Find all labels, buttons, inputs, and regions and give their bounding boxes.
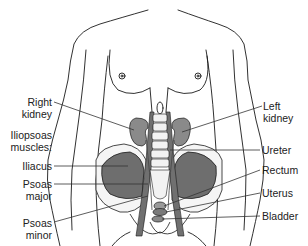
label-bladder-text: Bladder — [262, 210, 298, 222]
label-psoas-minor: Psoas minor — [2, 217, 52, 241]
right-kidney — [130, 118, 149, 146]
label-iliopsoas-muscles: Iliopsoas muscles: — [2, 129, 52, 153]
leader-right-kidney — [54, 102, 134, 130]
leader-left-kidney — [182, 106, 262, 132]
label-psoas-major: Psoas major — [2, 178, 52, 202]
label-iliopsoas-line1: Iliopsoas — [2, 129, 52, 141]
label-right-kidney: Right kidney — [6, 96, 52, 120]
label-bladder: Bladder — [262, 210, 298, 222]
sacrum — [150, 170, 170, 199]
label-psoas-minor-line1: Psoas — [2, 217, 52, 229]
label-rectum-text: Rectum — [262, 164, 298, 176]
label-left-kidney-line1: Left — [263, 100, 293, 112]
label-left-kidney: Left kidney — [263, 100, 293, 124]
label-ureter-text: Ureter — [262, 144, 291, 156]
label-uterus: Uterus — [262, 187, 293, 199]
label-iliopsoas-line2: muscles: — [2, 141, 52, 153]
label-psoas-minor-line2: minor — [2, 229, 52, 241]
label-psoas-major-line2: major — [2, 190, 52, 202]
label-right-kidney-line1: Right — [6, 96, 52, 108]
left-kidney — [172, 118, 191, 146]
spine — [150, 114, 170, 199]
label-iliacus: Iliacus — [2, 160, 52, 172]
uterus — [153, 209, 167, 216]
label-ureter: Ureter — [262, 144, 291, 156]
label-right-kidney-line2: kidney — [6, 108, 52, 120]
label-psoas-major-line1: Psoas — [2, 178, 52, 190]
label-iliacus-text: Iliacus — [2, 160, 52, 172]
iliacus-right — [102, 152, 144, 199]
label-uterus-text: Uterus — [262, 187, 293, 199]
label-rectum: Rectum — [262, 164, 298, 176]
label-left-kidney-line2: kidney — [263, 112, 293, 124]
iliacus-left — [174, 152, 216, 199]
